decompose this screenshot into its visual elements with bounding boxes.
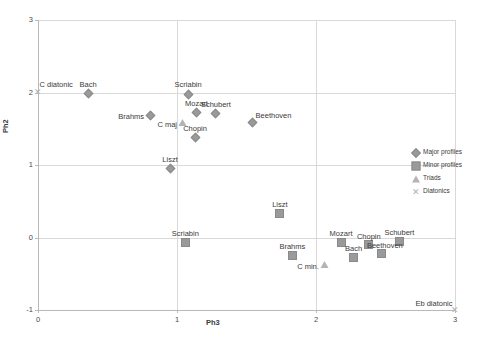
data-point[interactable]: Chopin [195, 137, 196, 138]
diamond-marker [411, 148, 421, 158]
legend-item-cross[interactable]: ✕Diatonics [411, 185, 481, 198]
y-tick-label: 3 [11, 16, 33, 24]
data-point-label: Scriabin [172, 230, 199, 238]
data-point[interactable]: Scriabin [185, 242, 186, 243]
data-point-label: Beethoven [256, 112, 292, 120]
y-axis-line [38, 20, 39, 310]
data-point-label: C min. [297, 262, 319, 270]
square-marker [275, 209, 284, 218]
diamond-marker [192, 108, 202, 118]
diamond-marker [83, 89, 93, 99]
data-point[interactable]: Liszt [170, 168, 171, 169]
data-point[interactable]: Mozart [341, 242, 342, 243]
data-point[interactable]: Mozart [196, 112, 197, 113]
legend-label: Minor profiles [423, 162, 462, 169]
legend-swatch [411, 174, 420, 183]
chart-legend: Major profilesMinor profilesTriads✕Diato… [411, 146, 481, 198]
square-marker [181, 238, 190, 247]
legend-label: Major profiles [423, 149, 462, 156]
x-tick-label: 3 [445, 316, 465, 324]
triangle-marker [179, 119, 187, 126]
triangle-marker [320, 261, 328, 268]
y-tick-label: 0 [11, 234, 33, 242]
x-tick-mark [316, 310, 317, 313]
triangle-marker [412, 175, 420, 182]
legend-item-square[interactable]: Minor profiles [411, 159, 481, 172]
legend-item-diamond[interactable]: Major profiles [411, 146, 481, 159]
data-point[interactable]: Brahms [150, 115, 151, 116]
legend-label: Diatonics [423, 188, 450, 195]
square-marker [288, 251, 297, 260]
x-tick-label: 2 [306, 316, 326, 324]
gridline-horizontal [38, 238, 455, 239]
legend-label: Triads [423, 175, 441, 182]
gridline-horizontal [38, 20, 455, 21]
data-point[interactable]: Brahms [292, 255, 293, 256]
data-point-label: Schubert [384, 229, 414, 237]
plot-area: BachScriabinBrahmsMozartSchubertBeethove… [38, 20, 455, 310]
data-point-label: Brahms [118, 113, 144, 121]
data-point[interactable]: Schubert [215, 113, 216, 114]
legend-swatch [411, 161, 420, 170]
x-tick-label: 0 [28, 316, 48, 324]
data-point-label: Chopin [357, 233, 381, 241]
gridline-horizontal [38, 165, 455, 166]
y-tick-mark [35, 238, 38, 239]
x-axis-title: Ph3 [206, 319, 220, 327]
cross-marker: ✕ [411, 187, 420, 196]
legend-swatch: ✕ [411, 187, 420, 196]
y-tick-mark [35, 20, 38, 21]
diamond-marker [211, 109, 221, 119]
y-tick-mark [35, 165, 38, 166]
diamond-marker [190, 132, 200, 142]
data-point-label: Eb diatonic [415, 299, 452, 307]
y-tick-label: 1 [11, 161, 33, 169]
diamond-marker [146, 111, 156, 121]
data-point-label: Bach [345, 245, 362, 253]
y-tick-mark [35, 310, 38, 311]
x-tick-mark [455, 310, 456, 313]
legend-item-triangle[interactable]: Triads [411, 172, 481, 185]
data-point[interactable]: Bach [353, 257, 354, 258]
data-point[interactable]: Bach [88, 93, 89, 94]
square-marker [411, 161, 420, 170]
scatter-chart: BachScriabinBrahmsMozartSchubertBeethove… [0, 0, 484, 339]
data-point-label: C maj [157, 121, 177, 129]
data-point[interactable]: Liszt [279, 213, 280, 214]
data-point-label: Chopin [183, 124, 207, 132]
square-marker [377, 249, 386, 258]
data-point-label: Mozart [330, 230, 353, 238]
data-point[interactable]: Beethoven [252, 122, 253, 123]
data-point-label: Beethoven [367, 241, 403, 249]
y-tick-label: 2 [11, 89, 33, 97]
y-tick-mark [35, 93, 38, 94]
x-tick-mark [38, 310, 39, 313]
x-axis-line [38, 310, 455, 311]
data-point-label: Liszt [162, 156, 177, 164]
y-axis-title: Ph2 [2, 119, 10, 133]
data-point-label: Brahms [279, 243, 305, 251]
data-point-label: Liszt [272, 201, 287, 209]
data-point-label: Scriabin [175, 81, 202, 89]
square-marker [349, 253, 358, 262]
data-point-label: Bach [79, 81, 96, 89]
y-tick-label: -1 [11, 306, 33, 314]
data-point[interactable]: Scriabin [188, 94, 189, 95]
data-point[interactable]: Beethoven [381, 253, 382, 254]
data-point[interactable]: C min. [324, 264, 325, 265]
x-tick-label: 1 [167, 316, 187, 324]
gridline-horizontal [38, 93, 455, 94]
x-tick-mark [177, 310, 178, 313]
data-point[interactable]: C maj [182, 122, 183, 123]
legend-swatch [411, 148, 420, 157]
data-point-label: C diatonic [40, 81, 73, 89]
data-point-label: Schubert [201, 101, 231, 109]
